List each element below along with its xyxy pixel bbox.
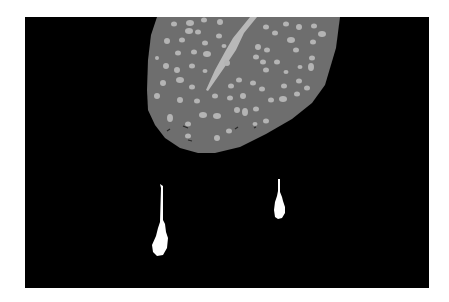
image-scene bbox=[0, 0, 449, 302]
